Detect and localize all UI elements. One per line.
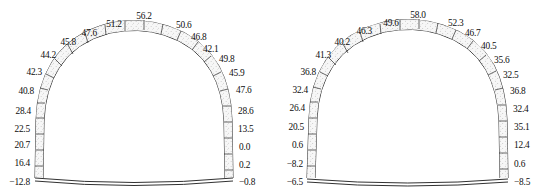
measurement-label-l-left-3: 20.7	[14, 141, 30, 150]
measurement-label-l-crown-1: 47.6	[81, 29, 97, 38]
measurement-label-l-right-10: −0.8	[239, 178, 255, 187]
measurement-label-r-right-4: 32.5	[503, 71, 519, 80]
measurement-label-l-crown-2: 51.2	[106, 20, 122, 29]
measurement-label-r-left-9: 40.2	[334, 38, 350, 47]
measurement-label-r-crown-1: 46.3	[356, 27, 372, 36]
tunnel-outline-left-svg	[0, 0, 275, 195]
tunnel-outline-right-svg	[274, 0, 549, 195]
measurement-label-r-crown-3: 58.0	[410, 11, 426, 20]
measurement-label-l-left-9: 45.8	[60, 38, 76, 47]
measurement-label-l-left-4: 22.5	[14, 125, 30, 134]
measurement-label-l-right-6: 28.6	[238, 107, 254, 116]
measurement-label-l-right-1: 46.8	[191, 33, 207, 42]
measurement-label-r-left-5: 26.4	[289, 104, 305, 113]
measurement-label-r-right-2: 40.5	[481, 42, 497, 51]
figure-canvas: −12.816.420.722.528.440.842.344.245.847.…	[0, 0, 549, 195]
measurement-label-l-right-2: 42.1	[203, 45, 219, 54]
measurement-label-l-right-7: 13.5	[238, 125, 254, 134]
measurement-label-r-right-3: 35.6	[494, 56, 510, 65]
measurement-label-l-left-1: −12.8	[9, 178, 30, 187]
tunnel-section-left: −12.816.420.722.528.440.842.344.245.847.…	[0, 0, 275, 195]
measurement-label-l-crown-3: 56.2	[136, 12, 152, 21]
measurement-label-l-right-4: 45.9	[229, 69, 245, 78]
measurement-label-r-left-4: 20.5	[288, 123, 304, 132]
tunnel-section-right: −6.5−8.20.620.526.432.436.841.340.246.34…	[274, 0, 549, 195]
invert-floor-left	[35, 178, 233, 186]
measurement-label-l-crown-4: 50.6	[176, 21, 192, 30]
measurement-label-r-left-3: 0.6	[292, 141, 303, 150]
measurement-label-r-right-7: 35.1	[514, 123, 530, 132]
measurement-label-r-right-1: 46.7	[465, 29, 481, 38]
measurement-label-r-right-6: 32.4	[513, 105, 529, 114]
measurement-label-r-left-8: 41.3	[315, 51, 331, 60]
measurement-label-r-left-7: 36.8	[300, 68, 316, 77]
measurement-label-l-left-5: 28.4	[15, 107, 31, 116]
measurement-label-l-right-8: 0.0	[239, 143, 250, 152]
measurement-label-l-right-3: 49.8	[219, 55, 235, 64]
measurement-label-r-left-2: −8.2	[287, 160, 303, 169]
measurement-label-l-left-8: 44.2	[40, 51, 56, 60]
measurement-label-r-right-10: −8.5	[514, 178, 530, 187]
measurement-label-r-right-5: 36.8	[510, 87, 526, 96]
measurement-label-l-right-5: 47.6	[236, 86, 252, 95]
measurement-label-r-left-6: 32.4	[292, 86, 308, 95]
measurement-label-l-right-9: 0.2	[239, 161, 250, 170]
measurement-label-l-left-2: 16.4	[14, 159, 30, 168]
measurement-label-l-left-7: 42.3	[26, 68, 42, 77]
measurement-label-r-crown-2: 49.6	[383, 19, 399, 28]
measurement-label-l-left-6: 40.8	[18, 87, 34, 96]
measurement-label-r-right-9: 0.6	[514, 160, 525, 169]
measurement-label-r-right-8: 12.4	[514, 141, 530, 150]
measurement-label-r-crown-4: 52.3	[448, 19, 464, 28]
measurement-label-r-left-1: −6.5	[287, 178, 303, 187]
invert-floor-right	[307, 179, 508, 186]
